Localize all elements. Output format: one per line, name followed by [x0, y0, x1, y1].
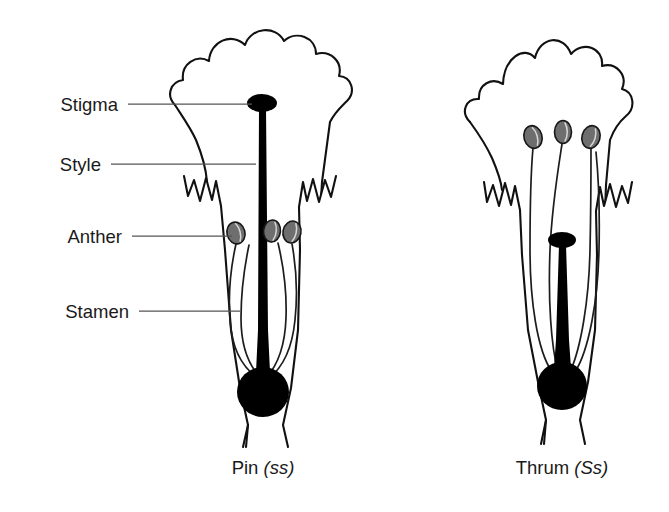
thrum-ovary [537, 362, 587, 410]
captions: Pin (ss) Thrum (Ss) [232, 457, 609, 478]
caption-thrum: Thrum (Ss) [516, 457, 609, 478]
label-stigma: Stigma [60, 94, 118, 115]
label-anther: Anther [67, 226, 122, 247]
caption-thrum-genotype: (Ss) [574, 457, 608, 478]
pin-ovary [237, 367, 289, 417]
thrum-anther-2 [555, 121, 572, 144]
label-stamen: Stamen [65, 301, 129, 322]
pin-anther-1 [225, 220, 248, 246]
flower-morph-diagram: Stigma Style Anther Stamen Pin (ss) Thru… [0, 0, 669, 512]
caption-thrum-name: Thrum [516, 457, 569, 478]
thrum-flower [465, 40, 632, 444]
caption-pin-name: Pin [232, 457, 259, 478]
caption-pin-genotype: (ss) [264, 457, 295, 478]
thrum-stigma [548, 232, 576, 248]
pin-stigma [247, 94, 277, 112]
pin-flower [170, 30, 352, 447]
diagram-canvas: Stigma Style Anther Stamen Pin (ss) Thru… [0, 0, 669, 512]
label-style: Style [60, 154, 101, 175]
thrum-calyx-left [484, 182, 546, 444]
part-labels: Stigma Style Anther Stamen [60, 94, 129, 322]
thrum-style [554, 245, 571, 368]
caption-pin: Pin (ss) [232, 457, 295, 478]
